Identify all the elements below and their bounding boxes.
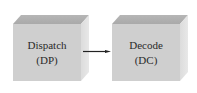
box-top-face [13,15,89,24]
box-top-face [112,15,188,24]
dispatch-label: Dispatch [27,38,66,53]
decode-abbr: (DC) [135,53,158,68]
box-side-face [81,15,89,81]
dispatch-stage-box: Dispatch (DP) [13,15,89,81]
box-front-face: Decode (DC) [112,24,180,81]
decode-label: Decode [129,38,163,53]
dispatch-abbr: (DP) [36,53,57,68]
box-side-face [180,15,188,81]
box-front-face: Dispatch (DP) [13,24,81,81]
arrow-right-icon [83,50,111,53]
decode-stage-box: Decode (DC) [112,15,188,81]
